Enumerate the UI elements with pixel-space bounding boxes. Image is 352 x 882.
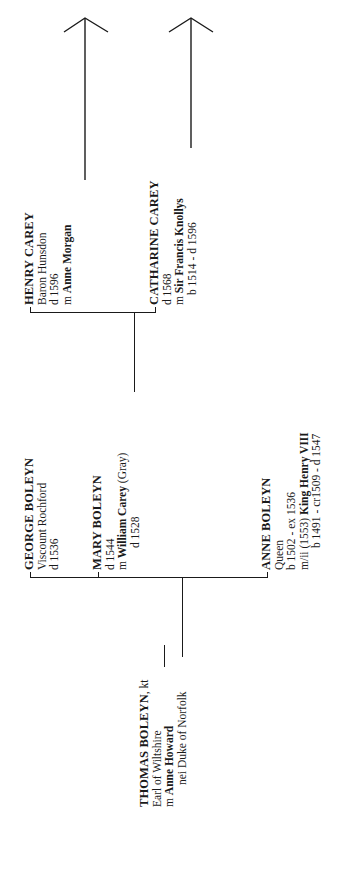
arrow-right-icon-henry xyxy=(64,18,108,180)
family-tree-diagram: THOMAS BOLEYN, kt Earl of Wiltshire m An… xyxy=(0,0,352,882)
arrow-right-icon-catharine xyxy=(169,18,213,148)
continuation-arrows xyxy=(0,0,352,882)
